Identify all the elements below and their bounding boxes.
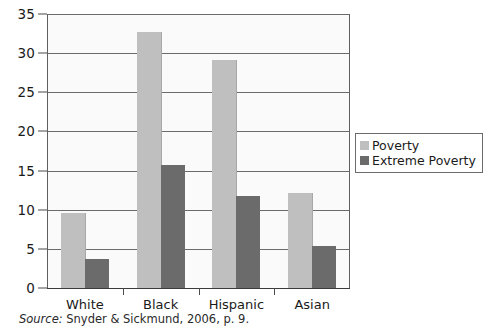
bar-hispanic-poverty [212,60,237,288]
y-axis-tick-label: 10 [17,202,35,218]
y-axis-tick-mark [38,209,47,210]
x-axis-tick-label-black: Black [143,297,178,312]
y-axis-tick-label: 5 [26,241,35,257]
source-caption: Source: Snyder & Sickmund, 2006, p. 9. [19,312,249,326]
bars-layer [48,15,349,288]
y-axis-tick-label: 30 [17,45,35,61]
legend-label-poverty: Poverty [372,138,419,153]
x-axis-tick-label-white: White [66,297,104,312]
x-axis-tick-label-hispanic: Hispanic [209,297,264,312]
y-axis-tick-mark [38,248,47,249]
y-axis: 05101520253035 [0,0,47,289]
bar-hispanic-extreme [236,196,260,288]
bar-asian-poverty [288,193,313,289]
bar-group-black [137,15,185,288]
bar-black-poverty [137,32,162,288]
x-axis-tick-mark [274,288,275,295]
y-axis-tick-mark [38,53,47,54]
bar-asian-extreme [312,246,336,288]
y-axis-tick-label: 35 [17,6,35,22]
x-axis-tick-label-asian: Asian [294,297,329,312]
legend-item-poverty: Poverty [360,138,476,153]
y-axis-tick-label: 15 [17,163,35,179]
x-axis-tick-mark [199,288,200,295]
x-axis-tick-mark [123,288,124,295]
y-axis-tick-mark [38,14,47,15]
y-axis-tick-label: 25 [17,84,35,100]
bar-group-asian [288,15,336,288]
legend-swatch-icon-poverty [360,141,369,150]
y-axis-tick-label: 0 [26,280,35,296]
y-axis-tick-mark [38,92,47,93]
bar-white-extreme [85,259,109,288]
bar-white-poverty [61,213,86,288]
legend-label-extreme-poverty: Extreme Poverty [372,153,476,168]
source-text: Snyder & Sickmund, 2006, p. 9. [63,312,249,326]
legend-item-extreme-poverty: Extreme Poverty [360,153,476,168]
y-axis-tick-label: 20 [17,123,35,139]
source-prefix: Source: [19,312,63,326]
y-axis-tick-mark [38,170,47,171]
bar-group-hispanic [212,15,260,288]
y-axis-tick-mark [38,288,47,289]
chart-legend: Poverty Extreme Poverty [355,133,483,173]
bar-black-extreme [161,165,185,288]
bar-group-white [61,15,109,288]
y-axis-tick-mark [38,131,47,132]
legend-swatch-icon-extreme-poverty [360,156,369,165]
